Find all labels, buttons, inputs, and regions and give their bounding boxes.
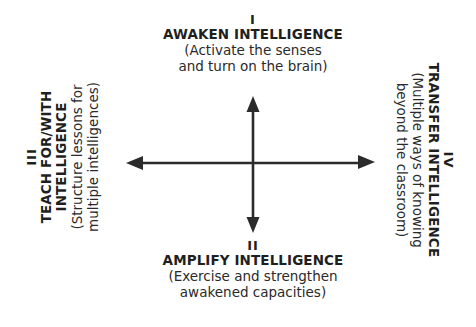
quadrant-numeral: I — [163, 12, 343, 27]
quadrant-awaken: I AWAKEN INTELLIGENCE (Activate the sens… — [163, 12, 343, 74]
quadrant-amplify: II AMPLIFY INTELLIGENCE (Exercise and st… — [163, 238, 344, 300]
quadrant-title: TRANSFER INTELLIGENCE — [426, 63, 441, 257]
quadrant-title: TEACH FOR/WITH — [39, 82, 54, 232]
quadrant-description-line: (Exercise and strengthen — [163, 268, 344, 284]
arrow-right-icon — [358, 155, 375, 169]
quadrant-description-line: and turn on the brain) — [163, 58, 343, 74]
quadrant-description-line: beyond the classroom) — [394, 63, 410, 257]
arrow-left-icon — [126, 156, 143, 170]
quadrant-teach: III TEACH FOR/WITH INTELLIGENCE (Structu… — [24, 82, 101, 232]
quadrant-description-line: (Structure lessons for — [69, 82, 85, 232]
vertical-double-arrow — [247, 96, 260, 233]
quadrant-title: AMPLIFY INTELLIGENCE — [163, 253, 344, 268]
quadrant-description-line: multiple intelligences) — [85, 82, 101, 232]
quadrant-numeral: IV — [441, 63, 456, 257]
arrow-down-icon — [247, 217, 260, 233]
quadrant-transfer: IV TRANSFER INTELLIGENCE (Multiple ways … — [394, 63, 456, 257]
quadrant-description-line: awakened capacities) — [163, 284, 344, 300]
horizontal-double-arrow — [126, 155, 375, 170]
quadrant-title: INTELLIGENCE — [54, 82, 69, 232]
quadrant-numeral: III — [24, 82, 39, 232]
arrow-up-icon — [247, 96, 260, 112]
quadrant-description-line: (Multiple ways of knowing — [410, 63, 426, 257]
quadrant-title: AWAKEN INTELLIGENCE — [163, 27, 343, 42]
quadrant-numeral: II — [163, 238, 344, 253]
quadrant-description-line: (Activate the senses — [163, 42, 343, 58]
